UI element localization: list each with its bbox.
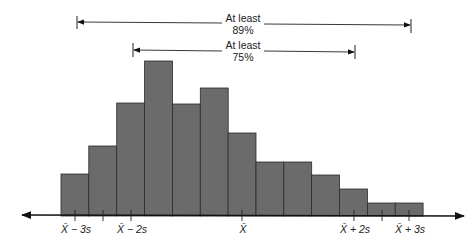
- histogram-bar: [89, 146, 117, 216]
- annotation-75-percent: At least 75%: [133, 39, 355, 63]
- histogram-bar: [172, 104, 200, 216]
- histogram-bar: [145, 61, 173, 216]
- annotation-89-percent: At least 89%: [77, 12, 411, 36]
- histogram-bar: [367, 203, 395, 216]
- annotation-89-line1: At least: [225, 12, 260, 24]
- annotation-75-line2: 75%: [232, 51, 253, 63]
- histogram-bar: [117, 103, 145, 216]
- x-tick-label: X̄ + 3s: [394, 223, 426, 235]
- histogram-bar: [340, 189, 368, 216]
- histogram-bars: [61, 61, 423, 216]
- x-tick-label: X̄ − 2s: [116, 223, 148, 235]
- histogram-bar: [228, 133, 256, 216]
- histogram-chart: X̄ − 3sX̄ − 2sX̄X̄ + 2sX̄ + 3s At least …: [0, 0, 476, 246]
- histogram-bar: [256, 162, 284, 216]
- histogram-bar: [284, 162, 312, 216]
- annotation-89-line2: 89%: [232, 24, 253, 36]
- x-tick-label: X̄: [238, 223, 247, 235]
- histogram-bar: [312, 175, 340, 216]
- annotation-75-line1: At least: [225, 39, 260, 51]
- x-axis-tick-labels: X̄ − 3sX̄ − 2sX̄X̄ + 2sX̄ + 3s: [60, 223, 426, 235]
- x-tick-label: X̄ − 3s: [60, 223, 92, 235]
- histogram-bar: [200, 88, 228, 216]
- x-tick-label: X̄ + 2s: [339, 223, 371, 235]
- histogram-bar: [61, 174, 89, 216]
